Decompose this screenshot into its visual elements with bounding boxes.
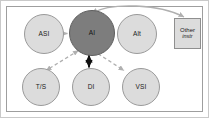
node-ai[interactable]: AI [69,10,115,56]
node-ai-label: AI [89,30,95,37]
diagram-root: ASI AI Alt T/S DI VSI Other instr [0,0,210,119]
node-vsi-label: VSI [136,84,147,91]
node-alt[interactable]: Alt [117,14,157,54]
node-other-instr[interactable]: Other instr [174,18,201,49]
node-asi[interactable]: ASI [24,14,64,54]
node-other-instr-line2: instr [182,34,192,40]
node-ts-label: T/S [36,84,46,91]
node-asi-label: ASI [39,31,50,38]
connector-ai-ts [46,51,79,71]
node-vsi[interactable]: VSI [122,68,160,106]
node-di[interactable]: DI [72,68,110,106]
node-alt-label: Alt [133,31,141,38]
node-di-label: DI [88,84,95,91]
node-ts[interactable]: T/S [22,68,60,106]
